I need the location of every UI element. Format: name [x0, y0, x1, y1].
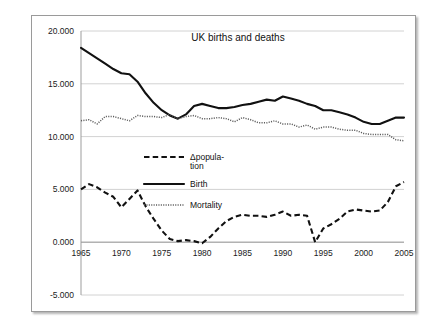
x-tick-label: 1975: [152, 248, 171, 258]
series-path-population: [81, 182, 404, 243]
x-tick-label: 1990: [273, 248, 292, 258]
x-tick-label: 1980: [193, 248, 212, 258]
x-tick-label: 1995: [314, 248, 333, 258]
y-tick-label: 15.000: [48, 79, 74, 89]
data-series-group: [81, 48, 404, 243]
y-tick-label: 0.000: [53, 237, 75, 247]
chart-container: -5.0000.0005.00010.00015.00020.000 19651…: [31, 15, 416, 312]
y-tick-label: 20.000: [48, 26, 74, 36]
y-axis-tick-labels: -5.0000.0005.00010.00015.00020.000: [48, 26, 74, 300]
chart-title: UK births and deaths: [191, 32, 284, 43]
y-tick-label: 5.000: [53, 184, 75, 194]
x-tick-label: 1965: [72, 248, 91, 258]
y-tick-label: -5.000: [50, 290, 74, 300]
chart-plot-area: -5.0000.0005.00010.00015.00020.000 19651…: [32, 16, 415, 311]
legend-label-mortality: Mortality: [190, 200, 223, 210]
series-path-birth: [81, 48, 404, 124]
chart-legend: Δpopula- tion Birth Mortality: [144, 152, 224, 210]
x-tick-label: 1970: [112, 248, 131, 258]
legend-label-birth: Birth: [190, 179, 208, 189]
x-axis-tick-labels: 196519701975198019851990199520002005: [72, 248, 414, 258]
legend-label-dpopulation-line2: tion: [190, 161, 204, 171]
y-tick-label: 10.000: [48, 132, 74, 142]
x-tick-label: 1985: [233, 248, 252, 258]
x-tick-label: 2000: [354, 248, 373, 258]
x-tick-label: 2005: [395, 248, 414, 258]
